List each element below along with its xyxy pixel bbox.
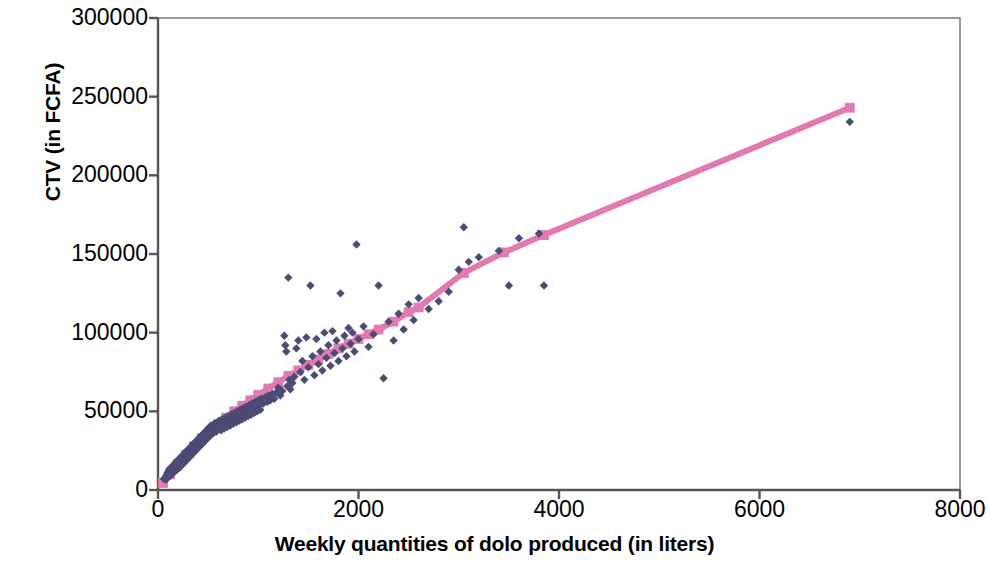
fitted-line-series <box>163 108 850 483</box>
fitted-line-markers <box>159 103 855 487</box>
chart-figure: CTV (in FCFA) Weekly quantities of dolo … <box>0 0 989 565</box>
x-axis-ticks <box>158 490 960 499</box>
y-axis-ticks <box>149 18 158 490</box>
plot-canvas <box>0 0 989 565</box>
plot-frame <box>158 18 960 490</box>
scatter-series <box>160 118 854 484</box>
